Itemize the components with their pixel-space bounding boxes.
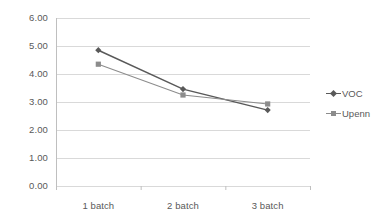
- diamond-marker-icon: [265, 107, 271, 113]
- square-marker-icon: [326, 108, 341, 119]
- square-marker-icon: [180, 92, 185, 97]
- plot-area: [0, 0, 381, 222]
- series-layer: [95, 47, 271, 113]
- legend-marker: [331, 111, 336, 116]
- diamond-marker-icon: [326, 88, 341, 99]
- x-axis-tick-label: 2 batch: [148, 200, 218, 211]
- chart-legend: VOCUpenn: [326, 88, 370, 119]
- series-line-upenn: [98, 64, 267, 104]
- y-axis-tick-label: 0.00: [14, 180, 48, 191]
- x-axis-tick-label: 3 batch: [233, 200, 303, 211]
- y-axis-tick-label: 5.00: [14, 40, 48, 51]
- y-axis-tick-label: 6.00: [14, 12, 48, 23]
- diamond-marker-icon: [95, 47, 101, 53]
- x-axis-tick-label: 1 batch: [63, 200, 133, 211]
- y-axis-tick-label: 4.00: [14, 68, 48, 79]
- legend-label: Upenn: [342, 108, 370, 119]
- legend-item-upenn[interactable]: Upenn: [326, 108, 370, 119]
- legend-item-voc[interactable]: VOC: [326, 88, 370, 99]
- square-marker-icon: [265, 101, 270, 106]
- y-axis-tick-label: 1.00: [14, 152, 48, 163]
- square-marker-icon: [96, 62, 101, 67]
- legend-marker: [330, 90, 337, 97]
- legend-label: VOC: [342, 88, 363, 99]
- axis-lines: [57, 18, 311, 190]
- gridlines: [56, 19, 310, 187]
- diamond-marker-icon: [180, 86, 186, 92]
- y-axis-tick-label: 3.00: [14, 96, 48, 107]
- line-chart: 0.001.002.003.004.005.006.00 1 batch2 ba…: [0, 0, 381, 222]
- y-axis-tick-label: 2.00: [14, 124, 48, 135]
